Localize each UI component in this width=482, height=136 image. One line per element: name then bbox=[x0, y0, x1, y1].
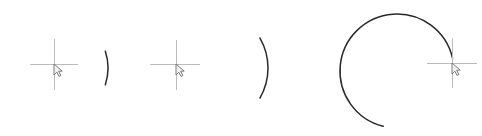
crosshair-cursor-1[interactable] bbox=[30, 39, 78, 90]
crosshair-cursor-2[interactable] bbox=[150, 40, 200, 90]
crosshair-cursor-3[interactable] bbox=[427, 38, 477, 88]
drawing-canvas bbox=[0, 0, 482, 136]
mouse-pointer-icon-2 bbox=[176, 64, 184, 76]
mouse-pointer-icon-1 bbox=[54, 64, 62, 76]
arc-path-3 bbox=[340, 14, 453, 126]
arc-path-1 bbox=[105, 51, 108, 84]
figure-1-arc-group bbox=[0, 0, 482, 136]
arc-path-2 bbox=[260, 38, 268, 98]
mouse-pointer-icon-3 bbox=[452, 63, 460, 75]
